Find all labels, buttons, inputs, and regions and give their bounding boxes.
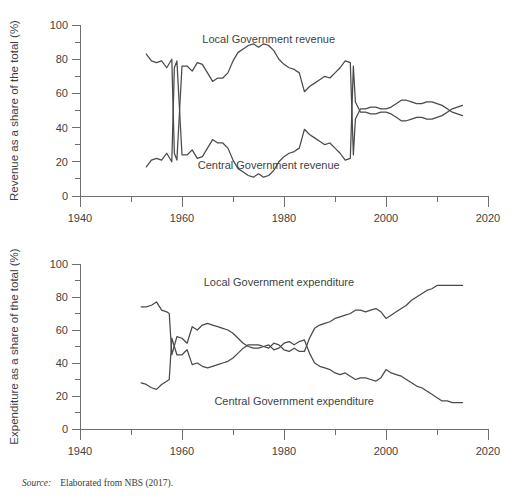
series-annotation: Central Government expenditure (214, 395, 374, 407)
figure-page: 02040608010019401960198020002020Revenue … (0, 0, 518, 503)
series-annotation: Local Government revenue (202, 33, 335, 45)
y-tick-label: 80 (56, 53, 68, 65)
y-tick-label: 60 (56, 87, 68, 99)
x-tick-label: 2000 (374, 445, 398, 457)
expenditure-chart: 02040608010019401960198020002020Expendit… (0, 240, 518, 468)
series-line (141, 302, 462, 403)
series-line (146, 44, 462, 160)
expenditure-chart-svg: 02040608010019401960198020002020Expendit… (0, 240, 518, 468)
y-tick-label: 100 (50, 258, 68, 270)
revenue-chart: 02040608010019401960198020002020Revenue … (0, 0, 518, 240)
x-tick-label: 1980 (272, 445, 296, 457)
series-annotation: Central Government revenue (198, 159, 340, 171)
x-tick-label: 1980 (272, 212, 296, 224)
y-axis-title: Revenue as a share of the total (%) (8, 20, 20, 201)
y-tick-label: 0 (62, 190, 68, 202)
series-annotation: Local Government expenditure (204, 276, 354, 288)
revenue-chart-svg: 02040608010019401960198020002020Revenue … (0, 0, 518, 240)
x-tick-label: 1960 (170, 212, 194, 224)
x-tick-label: 2020 (476, 445, 500, 457)
x-tick-label: 1960 (170, 445, 194, 457)
x-tick-label: 1940 (68, 212, 92, 224)
y-tick-label: 100 (50, 19, 68, 31)
y-tick-label: 0 (62, 423, 68, 435)
y-tick-label: 80 (56, 291, 68, 303)
y-tick-label: 40 (56, 357, 68, 369)
y-tick-label: 20 (56, 156, 68, 168)
source-label: Source: (22, 478, 51, 488)
y-tick-label: 20 (56, 390, 68, 402)
source-text: Elaborated from NBS (2017). (60, 478, 173, 488)
source-note: Source:Elaborated from NBS (2017). (22, 478, 173, 488)
y-tick-label: 60 (56, 324, 68, 336)
x-tick-label: 2000 (374, 212, 398, 224)
y-tick-label: 40 (56, 122, 68, 134)
y-axis-title: Expenditure as a share of the total (%) (8, 248, 20, 444)
x-tick-label: 1940 (68, 445, 92, 457)
x-tick-label: 2020 (476, 212, 500, 224)
